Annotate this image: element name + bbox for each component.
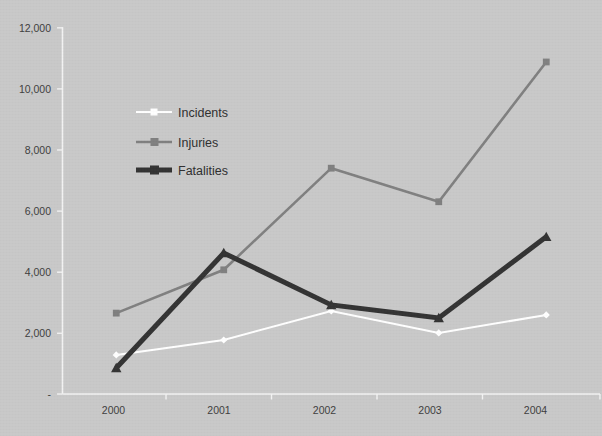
chart-legend: Incidents Injuries Fatalities: [136, 106, 228, 178]
data-point-injuries-2002[interactable]: [328, 165, 335, 172]
data-point-incidents-2000[interactable]: [113, 351, 120, 358]
line-chart: 12,000 10,000 8,000 6,000 4,000 2,000 - …: [0, 0, 602, 436]
y-tick-label-8000: 8,000: [25, 144, 51, 156]
y-tick-label-10000: 10,000: [19, 83, 51, 95]
series-fatalities: [111, 232, 551, 373]
y-tick-marks: [57, 28, 63, 394]
x-tick-label-2002: 2002: [313, 404, 337, 416]
data-point-incidents-2003[interactable]: [435, 329, 442, 336]
data-point-injuries-2000[interactable]: [113, 310, 120, 317]
x-tick-label-2003: 2003: [418, 404, 442, 416]
legend-marker-incidents-icon: [151, 109, 158, 116]
data-point-injuries-2001[interactable]: [220, 266, 227, 273]
legend-label-fatalities: Fatalities: [178, 164, 228, 178]
y-tick-label-4000: 4,000: [25, 266, 51, 278]
legend-item-fatalities[interactable]: Fatalities: [136, 164, 228, 178]
y-tick-label-2000: 2,000: [25, 327, 51, 339]
legend-marker-injuries-icon: [151, 138, 159, 146]
x-tick-label-2004: 2004: [524, 404, 548, 416]
y-tick-label-12000: 12,000: [19, 22, 51, 34]
legend-item-injuries[interactable]: Injuries: [136, 136, 218, 150]
series-line-incidents: [116, 311, 546, 355]
y-tick-labels: 12,000 10,000 8,000 6,000 4,000 2,000 -: [19, 22, 52, 400]
series-injuries: [113, 59, 550, 317]
data-point-incidents-2004[interactable]: [543, 311, 550, 318]
y-tick-label-0: -: [48, 388, 52, 400]
x-tick-marks: [166, 394, 600, 400]
legend-label-injuries: Injuries: [178, 136, 218, 150]
data-point-injuries-2003[interactable]: [435, 198, 442, 205]
series-incidents: [113, 307, 550, 358]
chart-plot-area: 12,000 10,000 8,000 6,000 4,000 2,000 - …: [0, 0, 602, 436]
data-point-injuries-2004[interactable]: [543, 59, 550, 66]
x-tick-label-2001: 2001: [207, 404, 231, 416]
legend-marker-fatalities-icon: [150, 166, 159, 175]
data-point-incidents-2001[interactable]: [220, 336, 227, 343]
legend-item-incidents[interactable]: Incidents: [136, 106, 228, 120]
y-tick-label-6000: 6,000: [25, 205, 51, 217]
x-tick-labels: 2000 2001 2002 2003 2004: [102, 404, 548, 416]
x-tick-label-2000: 2000: [102, 404, 126, 416]
legend-label-incidents: Incidents: [178, 106, 228, 120]
data-point-fatalities-2004[interactable]: [541, 232, 551, 241]
series-line-injuries: [116, 62, 546, 313]
